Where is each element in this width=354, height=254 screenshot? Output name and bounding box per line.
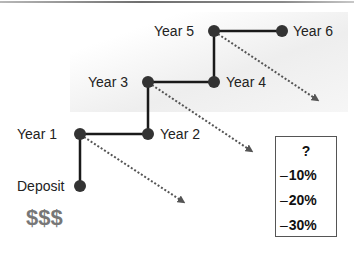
node-year2 xyxy=(142,128,154,140)
node-deposit xyxy=(74,180,86,192)
label-year2: Year 2 xyxy=(160,126,200,142)
minus-sign: – xyxy=(280,192,288,208)
label-year6: Year 6 xyxy=(293,23,333,39)
node-year5 xyxy=(208,25,220,37)
label-year1: Year 1 xyxy=(17,126,57,142)
loss-item-10: –10% xyxy=(280,167,340,183)
loss-item-30: –30% xyxy=(280,217,340,233)
minus-sign: – xyxy=(280,217,288,233)
label-year5: Year 5 xyxy=(154,23,194,39)
loss-item-20: –20% xyxy=(280,192,340,208)
minus-sign: – xyxy=(280,167,288,183)
loss-percentage-box: ? –10% –20% –30% xyxy=(275,136,337,237)
money-symbol: $$$ xyxy=(26,205,63,231)
label-year3: Year 3 xyxy=(88,74,128,90)
loss-arrow-year1 xyxy=(84,137,182,201)
loss-box-title: ? xyxy=(276,143,336,159)
label-year4: Year 4 xyxy=(226,74,266,90)
node-year3 xyxy=(142,76,154,88)
loss-value: 10% xyxy=(289,167,317,183)
loss-value: 30% xyxy=(289,217,317,233)
node-year4 xyxy=(208,76,220,88)
label-deposit: Deposit xyxy=(17,178,64,194)
node-year1 xyxy=(74,128,86,140)
node-year6 xyxy=(276,25,288,37)
growth-path-line xyxy=(80,31,282,186)
loss-value: 20% xyxy=(289,192,317,208)
